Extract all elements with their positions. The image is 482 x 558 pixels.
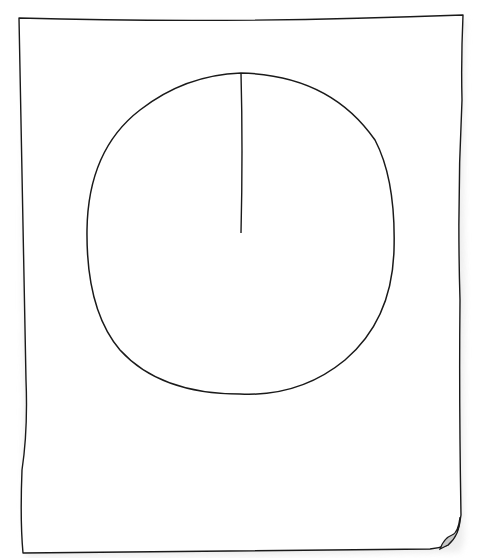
sketch-canvas (0, 0, 482, 558)
sketch-drawing (0, 0, 482, 558)
